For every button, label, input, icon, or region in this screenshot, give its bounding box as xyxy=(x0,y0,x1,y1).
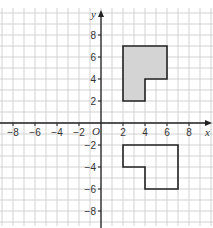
coordinate-plane: −8−6−4−224688642−2−4−6−8 x y O xyxy=(0,0,213,228)
x-tick-label: 8 xyxy=(186,127,192,138)
y-tick-label: 2 xyxy=(90,96,96,107)
x-tick-label: 2 xyxy=(120,127,126,138)
x-axis-label: x xyxy=(204,126,210,138)
y-tick-label: 6 xyxy=(90,52,96,63)
x-tick-label: −2 xyxy=(73,127,85,138)
y-tick-label: −2 xyxy=(85,140,97,151)
axes xyxy=(0,10,212,228)
y-tick-label: −6 xyxy=(85,184,97,195)
x-tick-label: 6 xyxy=(164,127,170,138)
x-tick-label: −4 xyxy=(51,127,63,138)
x-tick-label: 4 xyxy=(142,127,148,138)
x-tick-label: −8 xyxy=(7,127,19,138)
x-tick-label: −6 xyxy=(29,127,41,138)
shaded-l-shape xyxy=(123,46,167,101)
y-axis-label: y xyxy=(90,8,96,20)
y-tick-label: −8 xyxy=(85,206,97,217)
y-tick-label: 8 xyxy=(90,30,96,41)
origin-label: O xyxy=(92,125,100,137)
grid-lines xyxy=(0,8,213,226)
grid-diagram: −8−6−4−224688642−2−4−6−8 x y O xyxy=(0,0,213,228)
y-tick-label: 4 xyxy=(90,74,96,85)
y-axis-arrow-icon xyxy=(98,10,104,17)
shapes-layer xyxy=(123,46,178,189)
y-tick-label: −4 xyxy=(85,162,97,173)
